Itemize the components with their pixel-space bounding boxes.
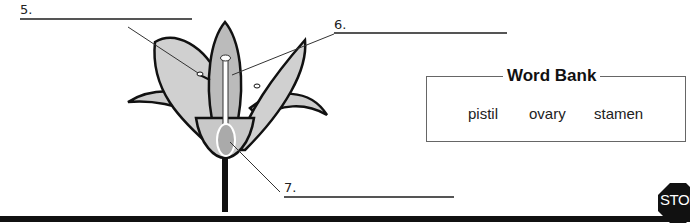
label-5-number: 5. — [20, 2, 32, 17]
label-6-number: 6. — [334, 17, 346, 32]
bottom-divider-bar — [0, 216, 690, 222]
label-7-number: 7. — [284, 180, 296, 195]
word-bank-word-pistil: pistil — [468, 105, 498, 122]
pointer-7 — [230, 142, 280, 192]
answer-line-7[interactable] — [284, 196, 454, 198]
answer-line-6[interactable] — [334, 32, 507, 34]
word-bank-word-stamen: stamen — [594, 105, 643, 122]
stop-sign-text: STOP — [660, 191, 690, 208]
answer-line-5[interactable] — [20, 18, 192, 20]
word-bank-word-ovary: ovary — [529, 105, 566, 122]
word-bank-title: Word Bank — [503, 66, 600, 86]
